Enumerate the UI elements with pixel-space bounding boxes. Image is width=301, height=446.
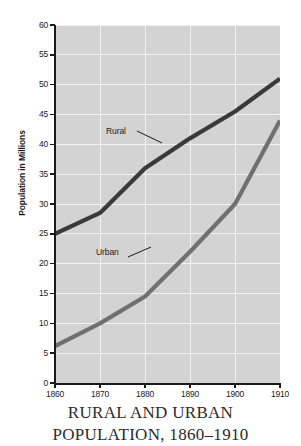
y-axis-tick (50, 144, 55, 146)
y-axis-tick-label: 20 (26, 259, 48, 268)
gridline-horizontal (55, 174, 280, 175)
gridline-vertical (100, 25, 101, 383)
chart-title: RURAL AND URBAN POPULATION, 1860–1910 (0, 402, 301, 445)
annotation-label-rural: Rural (106, 126, 126, 136)
gridline-horizontal (55, 84, 280, 85)
x-axis-tick (189, 384, 191, 388)
gridline-horizontal (55, 114, 280, 115)
y-axis-tick (50, 84, 55, 86)
y-axis-tick-label: 10 (26, 319, 48, 328)
annotation-label-urban: Urban (96, 247, 119, 257)
y-axis-tick-label: 0 (26, 379, 48, 388)
gridline-horizontal (55, 323, 280, 324)
y-axis-tick (50, 233, 55, 235)
y-axis-tick-label: 25 (26, 229, 48, 238)
y-axis-tick-label: 30 (26, 200, 48, 209)
y-axis-tick (50, 352, 55, 354)
y-axis-tick (50, 54, 55, 56)
gridline-horizontal (55, 25, 280, 26)
y-axis-tick (50, 114, 55, 116)
gridline-horizontal (55, 204, 280, 205)
x-axis-tick-label: 1860 (35, 390, 75, 399)
y-axis-tick-label: 60 (26, 21, 48, 30)
y-axis-tick (50, 293, 55, 295)
x-axis-tick-label: 1880 (125, 390, 165, 399)
x-axis-tick-label: 1870 (80, 390, 120, 399)
gridline-horizontal (55, 233, 280, 234)
y-axis-tick-label: 15 (26, 289, 48, 298)
y-axis-tick (50, 323, 55, 325)
y-axis-tick-label: 35 (26, 170, 48, 179)
gridline-horizontal (55, 54, 280, 55)
y-axis-tick-label: 40 (26, 140, 48, 149)
x-axis-tick-label: 1910 (260, 390, 300, 399)
gridline-horizontal (55, 293, 280, 294)
plot-area (55, 25, 280, 383)
x-axis-tick (279, 384, 281, 388)
x-axis-tick (54, 384, 56, 388)
x-axis-tick-label: 1890 (170, 390, 210, 399)
x-axis-line (54, 383, 281, 385)
gridline-horizontal (55, 263, 280, 264)
x-axis-tick-label: 1900 (215, 390, 255, 399)
y-axis-tick-label: 50 (26, 80, 48, 89)
x-axis-tick (99, 384, 101, 388)
gridline-vertical (145, 25, 146, 383)
y-axis-tick-label: 5 (26, 349, 48, 358)
chart-title-line-1: RURAL AND URBAN (0, 402, 301, 424)
series-line-rural (55, 79, 280, 234)
x-axis-tick (234, 384, 236, 388)
gridline-vertical (190, 25, 191, 383)
y-axis-tick (50, 173, 55, 175)
y-axis-title: Population in Millions (17, 113, 27, 233)
y-axis-tick-label: 45 (26, 110, 48, 119)
y-axis-tick-label: 55 (26, 50, 48, 59)
chart-figure: 051015202530354045505560 186018701880189… (0, 0, 301, 446)
gridline-vertical (235, 25, 236, 383)
gridline-horizontal (55, 353, 280, 354)
y-axis-tick (50, 24, 55, 26)
chart-title-line-2: POPULATION, 1860–1910 (0, 424, 301, 446)
y-axis-tick (50, 203, 55, 205)
gridline-horizontal (55, 144, 280, 145)
y-axis-tick (50, 263, 55, 265)
x-axis-tick (144, 384, 146, 388)
